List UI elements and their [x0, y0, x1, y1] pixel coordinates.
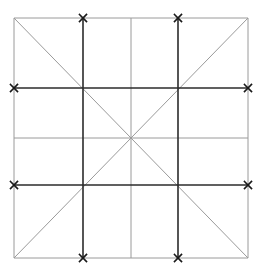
thin-lines-group: [14, 18, 248, 258]
grid-diagram: [0, 0, 262, 275]
